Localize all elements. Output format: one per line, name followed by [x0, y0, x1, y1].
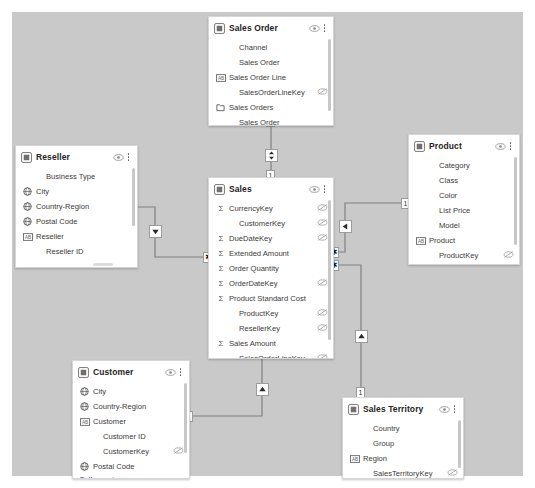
field-row[interactable]: ABRegion	[343, 451, 463, 466]
filter-direction-left-icon[interactable]	[339, 220, 352, 233]
hidden-eye-icon[interactable]	[317, 323, 328, 334]
eye-icon[interactable]	[309, 24, 320, 33]
hidden-eye-icon[interactable]	[317, 308, 328, 319]
globe-geo-icon	[22, 217, 33, 227]
table-card-reseller[interactable]: Reseller Business Type City Country-Regi…	[15, 145, 138, 268]
filter-direction-both-icon[interactable]	[265, 149, 278, 162]
table-card-customer[interactable]: Customer City Country-Region ABCustomer …	[72, 360, 190, 479]
field-row[interactable]: Postal Code	[16, 214, 137, 229]
field-label: Product	[429, 236, 514, 245]
hidden-eye-icon[interactable]	[317, 203, 328, 214]
field-row[interactable]: Sales Order	[209, 55, 333, 70]
field-row[interactable]: ProductKey	[409, 248, 519, 263]
table-scrollbar[interactable]	[184, 383, 187, 453]
eye-icon[interactable]	[495, 142, 506, 151]
field-row[interactable]: Business Type	[16, 169, 137, 184]
hidden-eye-icon[interactable]	[317, 353, 328, 359]
field-row[interactable]: Reseller ID	[16, 244, 137, 259]
table-scrollbar-horizontal[interactable]	[93, 263, 113, 266]
field-row[interactable]: List Price	[409, 203, 519, 218]
field-row[interactable]: ΣExtended Amount	[209, 246, 333, 261]
field-row[interactable]: Postal Code	[73, 459, 189, 474]
filter-direction-down-icon[interactable]	[149, 225, 162, 238]
more-options-icon[interactable]	[124, 151, 133, 164]
table-header-sales-order[interactable]: Sales Order	[209, 17, 333, 37]
field-row[interactable]: Country-Region	[16, 199, 137, 214]
table-card-sales-order[interactable]: Sales Order Channel Sales Order ABSales …	[208, 16, 334, 126]
table-header-sales-territory[interactable]: Sales Territory	[343, 398, 463, 418]
table-scrollbar[interactable]	[132, 168, 135, 226]
table-header-reseller[interactable]: Reseller	[16, 146, 137, 166]
field-row[interactable]: ABReseller	[16, 229, 137, 244]
collapse-button[interactable]: Collapse^	[409, 263, 519, 265]
field-row[interactable]: Group	[343, 436, 463, 451]
field-row[interactable]: ΣOrder Quantity	[209, 261, 333, 276]
model-diagram-canvas[interactable]: 1 1 1 ✱ 1 ✱ ✱ 1 1 ✱	[12, 12, 523, 476]
field-row[interactable]: Color	[409, 188, 519, 203]
field-row[interactable]: Country	[343, 421, 463, 436]
none-icon	[79, 432, 90, 442]
field-row[interactable]: ΣDueDateKey	[209, 231, 333, 246]
eye-icon[interactable]	[165, 368, 176, 377]
none-icon	[215, 118, 226, 127]
hidden-eye-icon[interactable]	[317, 87, 328, 98]
field-row[interactable]: ProductKey	[209, 306, 333, 321]
more-options-icon[interactable]	[450, 403, 459, 416]
eye-icon[interactable]	[309, 185, 320, 194]
field-row[interactable]: ABCustomer	[73, 414, 189, 429]
field-row[interactable]: SalesOrderLineKey	[209, 85, 333, 100]
globe-geo-icon	[79, 402, 90, 412]
field-row[interactable]: ΣProduct Standard Cost	[209, 291, 333, 306]
hidden-eye-icon[interactable]	[503, 250, 514, 261]
field-row[interactable]: City	[73, 384, 189, 399]
eye-icon[interactable]	[439, 405, 450, 414]
filter-direction-up-icon-customer[interactable]	[256, 383, 269, 396]
field-row[interactable]: SalesTerritoryKey	[343, 466, 463, 479]
more-options-icon[interactable]	[506, 140, 515, 153]
field-row[interactable]: Class	[409, 173, 519, 188]
table-icon	[348, 404, 359, 415]
eye-icon[interactable]	[113, 153, 124, 162]
field-row[interactable]: CustomerKey	[73, 444, 189, 459]
field-row[interactable]: ABSales Order Line	[209, 70, 333, 85]
hidden-eye-icon[interactable]	[317, 233, 328, 244]
more-options-icon[interactable]	[320, 183, 329, 196]
field-row[interactable]: Sales Orders	[209, 100, 333, 115]
field-label: ResellerKey	[229, 324, 317, 333]
field-row[interactable]: ΣOrderDateKey	[209, 276, 333, 291]
field-row[interactable]: City	[16, 184, 137, 199]
field-row[interactable]: Model	[409, 218, 519, 233]
table-scrollbar[interactable]	[328, 39, 331, 111]
filter-direction-up-icon-territory[interactable]	[355, 330, 368, 343]
table-scrollbar[interactable]	[328, 200, 331, 340]
collapse-button[interactable]: Collapse^	[73, 474, 189, 479]
table-header-customer[interactable]: Customer	[73, 361, 189, 381]
table-scrollbar[interactable]	[514, 157, 517, 245]
field-row[interactable]: Country-Region	[73, 399, 189, 414]
table-scrollbar[interactable]	[458, 420, 461, 468]
table-header-product[interactable]: Product	[409, 135, 519, 155]
table-card-sales-territory[interactable]: Sales Territory Country Group ABRegion S…	[342, 397, 464, 479]
globe-geo-icon	[22, 187, 33, 197]
table-title: Customer	[93, 367, 165, 377]
table-card-sales[interactable]: Sales ΣCurrencyKey CustomerKey ΣDueDateK…	[208, 177, 334, 359]
field-row[interactable]: ΣSales Amount	[209, 336, 333, 351]
hidden-eye-icon[interactable]	[447, 468, 458, 479]
field-row[interactable]: SalesOrderLineKey	[209, 351, 333, 359]
field-row[interactable]: ABProduct	[409, 233, 519, 248]
more-options-icon[interactable]	[176, 366, 185, 379]
more-options-icon[interactable]	[320, 22, 329, 35]
hidden-eye-icon[interactable]	[317, 218, 328, 229]
hidden-eye-icon[interactable]	[173, 446, 184, 457]
field-list-product: Category Class Color List Price Model AB…	[409, 155, 519, 265]
field-row[interactable]: Category	[409, 158, 519, 173]
field-row[interactable]: CustomerKey	[209, 216, 333, 231]
hidden-eye-icon[interactable]	[317, 278, 328, 289]
field-row[interactable]: ResellerKey	[209, 321, 333, 336]
field-row[interactable]: Customer ID	[73, 429, 189, 444]
table-card-product[interactable]: Product Category Class Color List Price …	[408, 134, 520, 265]
field-row[interactable]: ΣCurrencyKey	[209, 201, 333, 216]
table-header-sales[interactable]: Sales	[209, 178, 333, 198]
field-row[interactable]: Sales Order	[209, 115, 333, 126]
field-row[interactable]: Channel	[209, 40, 333, 55]
